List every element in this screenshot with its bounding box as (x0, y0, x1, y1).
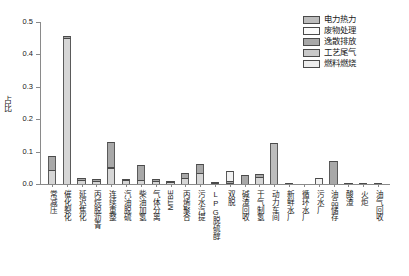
bar-segment (137, 165, 145, 180)
y-tick-label: 0.4 (23, 50, 33, 58)
y-tick-mark (36, 22, 40, 23)
bar-stack (196, 164, 204, 184)
y-tick-mark (36, 87, 40, 88)
x-tick-mark (67, 184, 68, 187)
x-tick-label: MTBE (166, 190, 174, 210)
x-tick-mark (289, 184, 290, 187)
bar-segment (241, 175, 249, 184)
x-tick-mark (126, 184, 127, 187)
x-tick-label: 油品储存 (329, 190, 337, 221)
x-tick-mark (171, 184, 172, 187)
y-tick-label: 0.5 (23, 18, 33, 26)
bar-segment (63, 38, 71, 184)
y-tick-mark (36, 54, 40, 55)
bar-stack (107, 142, 115, 184)
legend-swatch (303, 38, 320, 46)
bar-segment (196, 164, 204, 173)
x-tick-mark (52, 184, 53, 187)
x-tick-mark (200, 184, 201, 187)
y-tick-mark (36, 184, 40, 185)
bar-segment (329, 161, 337, 184)
x-tick-label: 酸渣 (344, 190, 352, 206)
x-tick-label: 新鲜水厂 (285, 190, 293, 221)
x-tick-label: 污水汽提 (196, 190, 204, 221)
bar-stack (181, 173, 189, 184)
legend-label: 逸散排放 (324, 37, 356, 46)
legend-swatch (303, 27, 320, 35)
x-tick-mark (378, 184, 379, 187)
x-tick-mark (319, 184, 320, 187)
x-tick-mark (304, 184, 305, 187)
x-tick-mark (185, 184, 186, 187)
x-tick-label: LPG脱硫醇 (211, 190, 219, 240)
legend-swatch (303, 60, 320, 68)
x-tick-label: 双脱 (226, 190, 234, 206)
bar-chart: 占比 0.00.10.20.30.40.5 常减压催化裂化延迟焦化丙烷脱沥青连续… (0, 0, 409, 276)
legend-label: 燃料燃烧 (324, 59, 356, 68)
y-tick-label: 0.2 (23, 115, 33, 123)
bar-stack (241, 175, 249, 184)
x-tick-label: 干气制氢 (255, 190, 263, 221)
bar-stack (48, 156, 56, 184)
legend-label: 废物处理 (324, 26, 356, 35)
y-tick-label: 0.3 (23, 83, 33, 91)
bar-stack (63, 36, 71, 184)
legend-label: 电力热力 (324, 15, 356, 24)
x-tick-label: 延迟焦化 (77, 190, 85, 221)
x-tick-mark (334, 184, 335, 187)
x-tick-label: 常减压 (48, 190, 56, 213)
y-axis-title: 占比 (2, 96, 11, 112)
bar-segment (48, 170, 56, 184)
legend-item: 工艺尾气 (303, 48, 356, 57)
x-tick-mark (259, 184, 260, 187)
x-tick-mark (230, 184, 231, 187)
x-tick-label: 动力车间 (270, 190, 278, 221)
bar-stack (137, 165, 145, 184)
x-tick-mark (274, 184, 275, 187)
bar-segment (270, 143, 278, 184)
x-tick-label: 丙烯聚合 (181, 190, 189, 221)
y-tick-mark (36, 119, 40, 120)
x-tick-label: 汽油脱硫 (122, 190, 130, 221)
legend-item: 电力热力 (303, 15, 356, 24)
bar-stack (329, 161, 337, 184)
x-tick-label: 碱渣回收 (240, 190, 248, 221)
x-tick-label: 催化裂化 (62, 190, 70, 221)
x-tick-mark (82, 184, 83, 187)
bar-segment (255, 177, 263, 184)
bar-segment (107, 142, 115, 167)
x-tick-label: 连续重整 (107, 190, 115, 221)
legend-item: 逸散排放 (303, 37, 356, 46)
x-tick-label: 丙烷脱沥青 (92, 190, 100, 229)
chart-legend: 电力热力废物处理逸散排放工艺尾气燃料燃烧 (303, 15, 356, 68)
legend-item: 燃料燃烧 (303, 59, 356, 68)
legend-swatch (303, 49, 320, 57)
x-tick-label: 气体分离 (151, 190, 159, 221)
bar-segment (226, 171, 234, 181)
bar-stack (270, 143, 278, 184)
bar-segment (107, 168, 115, 184)
x-tick-mark (245, 184, 246, 187)
x-tick-mark (141, 184, 142, 187)
x-tick-mark (111, 184, 112, 187)
x-tick-label: 油气回收 (374, 190, 382, 221)
legend-item: 废物处理 (303, 26, 356, 35)
legend-swatch (303, 16, 320, 24)
x-tick-label: 柴油加氢 (137, 190, 145, 221)
x-tick-label: 循环水厂 (300, 190, 308, 221)
x-tick-mark (363, 184, 364, 187)
y-tick-mark (36, 152, 40, 153)
bar-segment (48, 156, 56, 169)
bar-stack (226, 171, 234, 184)
legend-label: 工艺尾气 (324, 48, 356, 57)
bar-segment (196, 173, 204, 184)
y-tick-label: 0.0 (23, 180, 33, 188)
x-tick-mark (215, 184, 216, 187)
bar-stack (255, 174, 263, 184)
x-tick-label: 污水厂 (315, 190, 323, 213)
y-tick-label: 0.1 (23, 148, 33, 156)
x-tick-mark (156, 184, 157, 187)
y-axis-line (40, 22, 41, 184)
x-tick-label: 火炬 (359, 190, 367, 206)
x-tick-mark (348, 184, 349, 187)
